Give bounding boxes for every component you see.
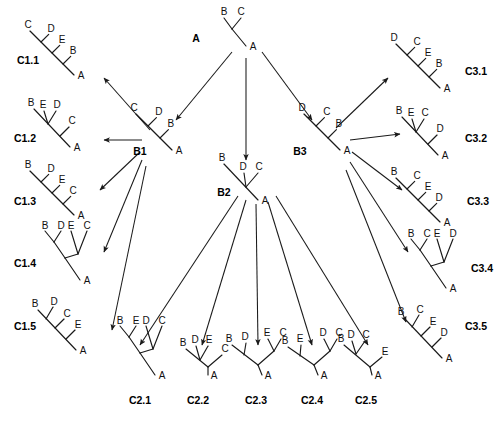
tree-name-label: B3 xyxy=(293,145,307,157)
taxon-label: D xyxy=(390,32,397,43)
taxon-label: B xyxy=(226,333,233,344)
tree-glyph: BEDCA xyxy=(117,315,166,382)
tree-glyph: BDECA xyxy=(226,327,287,381)
taxon-label: B xyxy=(180,337,187,348)
transition-arrow xyxy=(268,202,312,345)
taxon-label: D xyxy=(319,327,326,338)
taxon-label: B xyxy=(338,333,345,344)
taxon-label: D xyxy=(191,334,198,345)
taxon-label: E xyxy=(408,107,415,118)
transition-arrow xyxy=(100,152,140,190)
transition-arrow xyxy=(104,160,142,252)
tree-glyph: DECBA xyxy=(398,304,453,364)
taxon-label: B xyxy=(42,220,49,231)
transition-arrow xyxy=(262,52,312,120)
taxon-label: E xyxy=(133,315,140,326)
tree-glyph-root: BCA xyxy=(221,6,257,52)
transition-arrow xyxy=(350,162,408,252)
taxon-label: C xyxy=(63,308,70,319)
taxon-label: A xyxy=(84,275,91,286)
tree-name-label: C3.4 xyxy=(471,262,493,274)
tree-name-label: C2.5 xyxy=(355,394,377,406)
tree-name-label: C3.5 xyxy=(465,320,487,332)
taxon-label: E xyxy=(59,34,66,45)
transition-arrow xyxy=(346,170,406,322)
taxon-label: C xyxy=(416,304,423,315)
transition-arrow xyxy=(104,78,150,130)
taxon-label: E xyxy=(206,334,213,345)
transition-arrow xyxy=(256,204,258,345)
tree-name-label: B1 xyxy=(133,145,147,157)
taxon-label: C xyxy=(24,19,31,30)
taxon-label: B xyxy=(219,152,226,163)
tree-glyph: CEDBA xyxy=(28,97,81,153)
taxon-label: C xyxy=(414,36,421,47)
tree-glyph: BEDCA xyxy=(282,327,343,381)
tree-name-label: C1.4 xyxy=(14,257,36,269)
taxon-label: A xyxy=(250,41,257,52)
tree-name-label: C2.3 xyxy=(245,394,267,406)
tree-glyph: ECDBA xyxy=(32,296,87,356)
taxon-label: A xyxy=(176,145,183,156)
taxon-label: B xyxy=(436,58,443,69)
taxon-label: C xyxy=(221,343,228,354)
taxon-label: A xyxy=(262,195,269,206)
taxon-label: B xyxy=(70,45,77,56)
taxon-label: C xyxy=(68,115,75,126)
taxon-label: B xyxy=(396,105,403,116)
taxon-label: D xyxy=(436,123,443,134)
transition-arrow xyxy=(140,196,238,345)
taxon-label: C xyxy=(414,170,421,181)
diagram-canvas: BCAABDCBDCAABCDABEDCCEDBAACEDBBDECAECDBA… xyxy=(0,0,502,427)
tree-glyph: ABECD xyxy=(390,32,450,94)
taxon-label: E xyxy=(59,174,66,185)
tree-name-label: B2 xyxy=(217,186,231,198)
taxon-label: D xyxy=(142,315,149,326)
taxon-label: A xyxy=(159,370,166,381)
transition-arrow xyxy=(202,200,246,345)
taxon-label: C xyxy=(83,220,90,231)
transition-arrow xyxy=(176,52,232,120)
transition-arrow xyxy=(350,134,400,140)
taxon-label: D xyxy=(241,331,248,342)
tree-name-label: C2.4 xyxy=(301,394,323,406)
taxon-label: D xyxy=(48,23,55,34)
taxon-label: C xyxy=(423,228,430,239)
tree-hierarchy-svg: BCAABDCBDCAABCDABEDCCEDBAACEDBBDECAECDBA… xyxy=(0,0,502,427)
arrow-layer xyxy=(100,52,408,345)
tree-name-label: C3.1 xyxy=(465,65,487,77)
tree-glyph-layer: BCAABDCBDCAABCDABEDCCEDBAACEDBBDECAECDBA… xyxy=(24,6,456,381)
taxon-label: E xyxy=(75,319,82,330)
taxon-label: C xyxy=(237,6,244,17)
taxon-label: B xyxy=(168,118,175,129)
taxon-label: A xyxy=(444,217,451,228)
taxon-label: E xyxy=(264,327,271,338)
taxon-label: B xyxy=(221,6,228,17)
taxon-label: E xyxy=(425,181,432,192)
tree-name-label: C3.2 xyxy=(465,132,487,144)
taxon-label: D xyxy=(48,163,55,174)
taxon-label: E xyxy=(430,316,437,327)
taxon-label: A xyxy=(450,283,457,294)
taxon-label: A xyxy=(265,370,272,381)
taxon-label: A xyxy=(344,145,351,156)
taxon-label: A xyxy=(80,345,87,356)
taxon-label: E xyxy=(40,99,47,110)
taxon-label: D xyxy=(50,296,57,307)
tree-name-label: C2.1 xyxy=(129,394,151,406)
taxon-label: B xyxy=(391,166,398,177)
tree-name-label: C1.1 xyxy=(17,54,39,66)
taxon-label: C xyxy=(255,161,262,172)
taxon-label: D xyxy=(239,161,246,172)
taxon-label: D xyxy=(53,99,60,110)
taxon-label: D xyxy=(440,327,447,338)
taxon-label: E xyxy=(297,333,304,344)
taxon-label: E xyxy=(382,346,389,357)
tree-name-label: C1.2 xyxy=(14,132,36,144)
taxon-label: A xyxy=(446,353,453,364)
tree-glyph: ADECB xyxy=(391,166,451,228)
taxon-label: A xyxy=(444,83,451,94)
tree-name-label: C2.2 xyxy=(187,394,209,406)
taxon-label: D xyxy=(347,329,354,340)
taxon-label: C xyxy=(323,106,330,117)
